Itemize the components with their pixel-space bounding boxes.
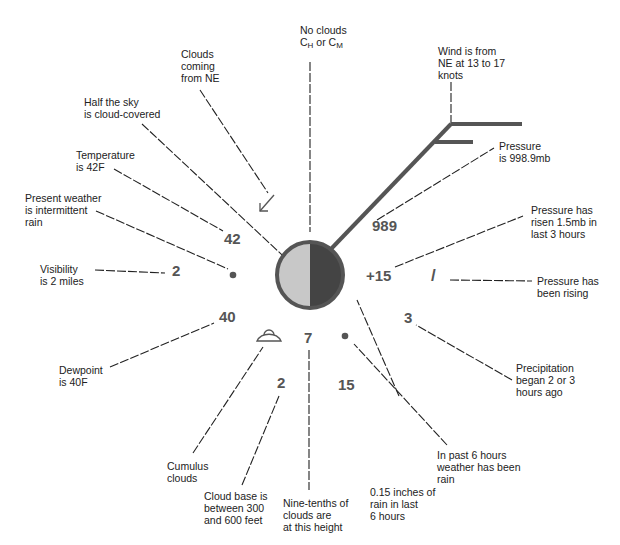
pressure-change-label: Pressure has risen 1.5mb in last 3 hours: [531, 204, 597, 240]
low-cloud-amount-value: 7: [304, 329, 312, 346]
pressure-value: 989: [372, 217, 397, 234]
cumulus-label: Cumulus clouds: [167, 460, 208, 484]
cloud-base-label: Cloud base is between 300 and 600 feet: [204, 490, 268, 526]
present-weather-label: Present weather is intermittent rain: [25, 192, 101, 228]
precip-amount-value: 15: [338, 376, 355, 393]
temperature-value: 42: [224, 230, 241, 247]
wind-barb-icon: [331, 124, 522, 249]
leader-precip-amount: [357, 300, 399, 396]
sky-cover-circle-icon: [277, 242, 343, 308]
clouds-motion-label: Clouds coming from NE: [181, 48, 220, 84]
dewpoint-label: Dewpoint is 40F: [59, 364, 103, 388]
leader-pressure-tendency: [450, 280, 532, 281]
leader-temperature: [114, 169, 223, 231]
dewpoint-value: 40: [219, 308, 236, 325]
leader-cumulus: [193, 347, 263, 453]
leader-pressure-change: [395, 216, 523, 267]
precip-time-label: Precipitation began 2 or 3 hours ago: [516, 362, 575, 398]
cumulus-cloud-icon: [257, 330, 281, 341]
sky-cover-label: Half the sky is cloud-covered: [84, 96, 160, 120]
leader-past-weather: [354, 344, 447, 445]
pressure-tendency-label: Pressure has been rising: [537, 275, 599, 299]
leader-cloud-base: [242, 396, 279, 485]
leader-visibility: [95, 270, 165, 273]
precip-time-value: 3: [404, 309, 412, 326]
past-weather-label: In past 6 hours weather has been rain: [437, 449, 520, 485]
pressure-change-value: +15: [366, 267, 391, 284]
temperature-label: Temperature is 42F: [76, 149, 135, 173]
leader-present-weather: [96, 211, 228, 269]
present-weather-rain-dot-icon: [230, 272, 237, 279]
precip-amount-label: 0.15 inches of rain in last 6 hours: [370, 486, 435, 522]
visibility-label: Visibility is 2 miles: [40, 263, 84, 287]
station-model-diagram: 42 2 40 7 2 15 3 +15 / 989 No cloudsCH o…: [0, 0, 620, 545]
past-weather-rain-dot-icon: [342, 333, 349, 340]
cloud-base-value: 2: [277, 374, 285, 391]
leader-clouds-motion: [200, 90, 268, 193]
leader-dewpoint: [110, 323, 214, 367]
no-clouds-label: No cloudsCH or CM: [300, 24, 347, 52]
pressure-tendency-icon: /: [431, 266, 436, 286]
cloud-motion-arrow-icon: [260, 195, 274, 211]
leader-precip-time: [416, 325, 512, 380]
wind-label: Wind is from NE at 13 to 17 knots: [438, 45, 505, 81]
pressure-label: Pressure is 998.9mb: [499, 140, 550, 164]
cloud-amount-label: Nine-tenths of clouds are at this height: [283, 497, 348, 533]
visibility-value: 2: [172, 262, 180, 279]
station-model-graphics: [0, 0, 620, 545]
